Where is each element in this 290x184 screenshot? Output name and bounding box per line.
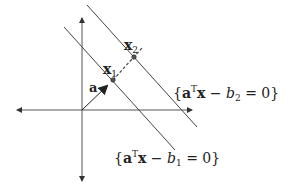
label-x2: x2: [124, 37, 138, 55]
label-vector-a: a: [89, 80, 98, 95]
hyperplane-diagram: a x1 x2 {aTx − b2 = 0} {aTx − b1 = 0}: [0, 0, 290, 184]
label-hyperplane-b2: {aTx − b2 = 0}: [173, 84, 279, 103]
label-x1: x1: [103, 61, 117, 79]
point-x2: [132, 55, 136, 59]
hyperplane-b1: [64, 27, 175, 150]
label-hyperplane-b1: {aTx − b1 = 0}: [114, 149, 220, 168]
